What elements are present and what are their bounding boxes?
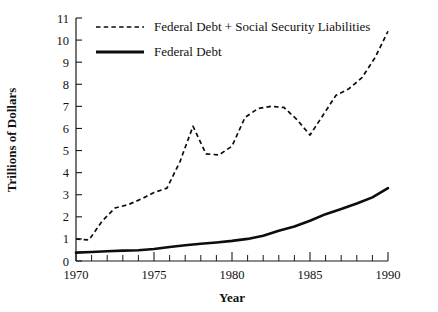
svg-text:1970: 1970 xyxy=(64,268,89,282)
legend-label-federal-debt-plus-social-security: Federal Debt + Social Security Liabiliti… xyxy=(154,19,370,34)
svg-text:8: 8 xyxy=(63,78,69,92)
y-axis-tick-labels: 01234567891011 xyxy=(57,12,70,269)
svg-text:10: 10 xyxy=(57,34,70,48)
svg-text:6: 6 xyxy=(63,122,69,136)
svg-text:7: 7 xyxy=(63,100,69,114)
series-line-federal-debt xyxy=(76,188,388,253)
svg-text:2: 2 xyxy=(63,210,69,224)
svg-text:0: 0 xyxy=(63,255,69,269)
y-axis-title: Trillions of Dollars xyxy=(4,88,19,192)
svg-text:11: 11 xyxy=(57,12,69,26)
svg-text:4: 4 xyxy=(63,166,70,180)
svg-text:1: 1 xyxy=(63,232,69,246)
svg-text:5: 5 xyxy=(63,144,69,158)
legend: Federal Debt + Social Security Liabiliti… xyxy=(96,19,370,59)
svg-text:1990: 1990 xyxy=(376,268,401,282)
x-axis-ticks xyxy=(76,252,388,261)
svg-text:1985: 1985 xyxy=(298,268,323,282)
svg-text:9: 9 xyxy=(63,56,69,70)
svg-text:1980: 1980 xyxy=(220,268,245,282)
svg-text:1975: 1975 xyxy=(142,268,167,282)
x-axis-tick-labels: 19701975198019851990 xyxy=(64,268,401,282)
svg-text:3: 3 xyxy=(63,188,69,202)
x-axis-title: Year xyxy=(219,290,245,305)
y-axis-ticks xyxy=(76,18,82,261)
chart-figure: 01234567891011 19701975198019851990 Fede… xyxy=(0,0,438,312)
legend-label-federal-debt: Federal Debt xyxy=(154,44,222,59)
line-chart-svg: 01234567891011 19701975198019851990 Fede… xyxy=(0,0,438,312)
